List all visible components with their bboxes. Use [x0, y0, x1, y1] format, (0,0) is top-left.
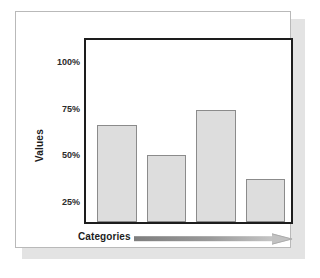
plot-area	[84, 38, 293, 224]
bar-1	[97, 125, 137, 222]
y-tick-label: 75%	[62, 104, 80, 114]
right-arrow-icon	[134, 233, 293, 245]
chart-card: 100% 75% 50% 25% Values Categories	[15, 11, 291, 248]
bar-2	[147, 155, 186, 222]
bar-3	[196, 110, 236, 222]
bars-container	[86, 40, 291, 222]
x-axis-title: Categories	[78, 231, 131, 242]
y-axis-title: Values	[34, 116, 48, 176]
y-tick-label: 50%	[62, 150, 80, 160]
y-tick-label: 100%	[57, 57, 80, 67]
y-tick-label: 25%	[62, 197, 80, 207]
bar-4	[246, 179, 285, 222]
y-axis-tick-labels: 100% 75% 50% 25%	[44, 12, 80, 278]
